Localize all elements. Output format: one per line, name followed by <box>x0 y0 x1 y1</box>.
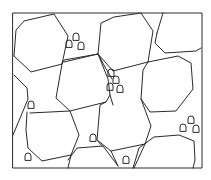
grain-boundary <box>141 56 193 112</box>
particle-icon <box>123 156 129 163</box>
grain-boundary <box>68 155 71 168</box>
particle-icon <box>28 101 34 108</box>
particle-icon <box>78 42 84 49</box>
particle-icon <box>193 125 199 132</box>
grain-boundary <box>110 95 113 105</box>
grain-boundary <box>14 14 68 72</box>
particle-icon <box>117 85 123 92</box>
particle-icon <box>108 69 114 76</box>
grain-boundary <box>133 135 195 168</box>
particle-icon <box>73 33 79 40</box>
grain-boundary <box>155 33 201 53</box>
grain-boundary <box>98 13 153 71</box>
grain-boundary <box>68 146 118 166</box>
particle-icon <box>25 153 31 160</box>
grain-boundary <box>26 111 79 161</box>
particle-icon <box>113 76 119 83</box>
grain-boundary <box>97 99 151 151</box>
grain-boundary <box>157 13 163 33</box>
particle-icon <box>180 124 186 131</box>
grain-structure-diagram <box>0 0 211 180</box>
grain-boundary <box>56 54 110 111</box>
particle-icon <box>90 134 96 141</box>
grain-boundary <box>98 54 112 79</box>
particle-icon <box>107 83 113 90</box>
particle-icon <box>188 116 194 123</box>
